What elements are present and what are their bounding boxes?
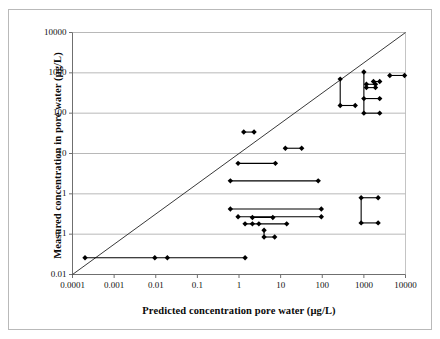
connector-segments	[85, 72, 405, 258]
x-tick-label: 0.01	[133, 280, 179, 290]
x-tick-label: 0.0001	[50, 280, 96, 290]
y-tick-label: 10	[10, 148, 67, 158]
x-tick-label: 100	[299, 280, 345, 290]
x-tick-label: 0.1	[174, 280, 220, 290]
x-tick-label: 1000	[341, 280, 387, 290]
x-axis-title: Predicted concentration pore water (µg/L…	[72, 305, 406, 316]
x-tick-label: 10	[258, 280, 304, 290]
figure-container: Predicted concentration pore water (µg/L…	[0, 0, 440, 339]
y-tick-label: 1000	[10, 67, 67, 77]
y-tick-label: 0.1	[10, 228, 67, 238]
x-tick-label: 1	[216, 280, 262, 290]
y-tick-label: 100	[10, 107, 67, 117]
y-tick-label: 1	[10, 188, 67, 198]
y-tick-label: 10000	[10, 27, 67, 37]
x-tick-label: 10000	[383, 280, 429, 290]
y-tick-label: 0.01	[10, 269, 67, 279]
x-tick-label: 0.001	[91, 280, 137, 290]
